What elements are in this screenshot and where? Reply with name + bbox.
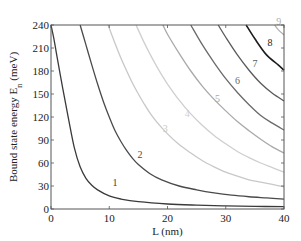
x-axis-label: L (nm): [152, 225, 183, 238]
y-axis-ticks: 0306090120150180210240: [33, 19, 285, 215]
energy-level-chart: 123456789 010203040 03060901201501802102…: [0, 0, 301, 241]
curves-layer: [51, 25, 284, 207]
y-axis-label: Bound state energy En (meV): [7, 52, 24, 182]
curve-n2: [80, 25, 284, 199]
x-tick-label: 30: [220, 212, 232, 224]
curve-n7: [218, 25, 284, 101]
curve-label-n4: 4: [185, 108, 190, 119]
curve-n4: [136, 25, 284, 172]
curve-label-n5: 5: [215, 93, 220, 104]
y-tick-label: 30: [38, 180, 50, 192]
curve-label-n7: 7: [252, 58, 257, 69]
x-tick-label: 20: [162, 212, 174, 224]
curve-label-n2: 2: [138, 149, 143, 160]
curve-n3: [108, 25, 284, 187]
y-tick-label: 0: [44, 203, 50, 215]
x-tick-label: 0: [48, 212, 54, 224]
plot-frame: [51, 25, 284, 209]
curve-n5: [163, 25, 284, 153]
y-tick-label: 240: [33, 19, 50, 31]
y-tick-label: 180: [33, 65, 50, 77]
y-tick-label: 120: [33, 111, 50, 123]
x-tick-label: 10: [104, 212, 116, 224]
curve-label-n3: 3: [163, 123, 168, 134]
curve-label-n6: 6: [235, 75, 240, 86]
x-axis-ticks: 010203040: [48, 25, 290, 224]
curve-label-n8: 8: [268, 37, 273, 48]
y-tick-label: 150: [33, 88, 50, 100]
y-tick-label: 210: [33, 42, 50, 54]
y-tick-label: 60: [38, 157, 50, 169]
curve-label-n1: 1: [113, 177, 118, 188]
y-tick-label: 90: [38, 134, 50, 146]
x-tick-label: 40: [279, 212, 291, 224]
